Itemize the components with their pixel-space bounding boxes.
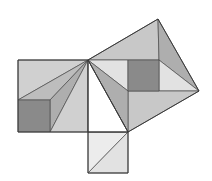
left-square-core [18, 100, 50, 132]
pythagorean-dissection-diagram: Pythagorean theorem dissection proof [0, 0, 212, 181]
hyp-square-core [128, 60, 159, 91]
